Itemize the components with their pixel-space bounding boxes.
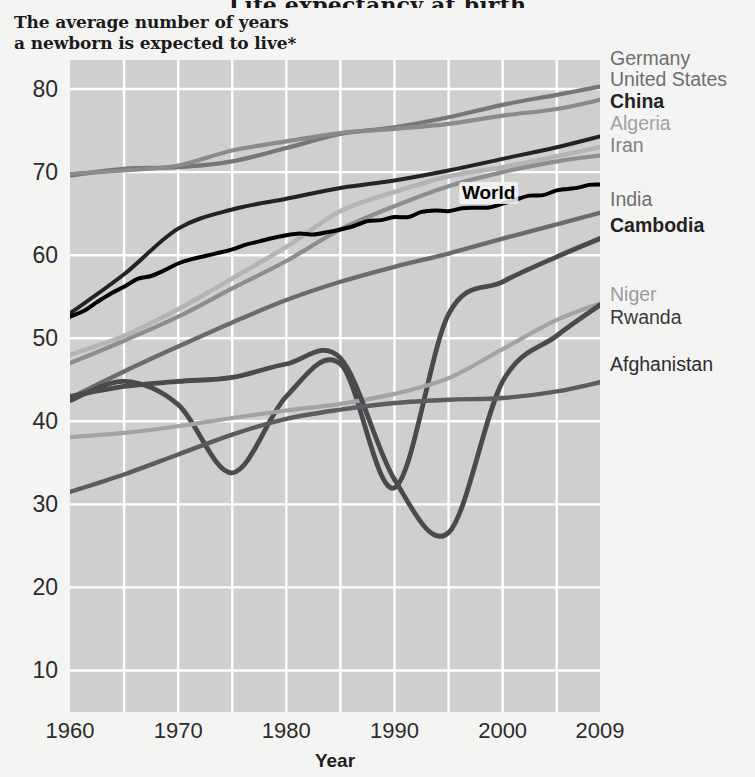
y-tick-10: 10	[32, 657, 58, 684]
x-axis-title: Year	[70, 750, 600, 772]
plot-area: World	[70, 60, 600, 712]
x-tick-2000: 2000	[478, 718, 527, 744]
legend-item-germany: Germany	[610, 49, 690, 68]
subtitle-line-2: a newborn is expected to live*	[14, 33, 296, 53]
y-tick-80: 80	[32, 76, 58, 103]
y-tick-20: 20	[32, 574, 58, 601]
chart-figure: Life expectancy at birth The average num…	[0, 0, 755, 777]
y-tick-60: 60	[32, 242, 58, 269]
series-line-afghanistan	[70, 382, 600, 492]
x-tick-1990: 1990	[370, 718, 419, 744]
legend-item-afghanistan: Afghanistan	[610, 355, 713, 374]
inline-label-world: World	[459, 182, 518, 204]
legend-item-niger: Niger	[610, 285, 657, 304]
y-tick-50: 50	[32, 325, 58, 352]
legend-item-cambodia: Cambodia	[610, 216, 704, 235]
y-axis-tick-labels: 8070605040302010	[0, 60, 66, 712]
chart-subtitle: The average number of years a newborn is…	[14, 12, 434, 54]
y-tick-70: 70	[32, 159, 58, 186]
plot-svg	[70, 60, 600, 712]
x-tick-1980: 1980	[262, 718, 311, 744]
y-tick-30: 30	[32, 491, 58, 518]
legend-item-china: China	[610, 92, 664, 111]
legend-item-algeria: Algeria	[610, 114, 671, 133]
y-tick-40: 40	[32, 408, 58, 435]
x-tick-1960: 1960	[46, 718, 95, 744]
legend-item-united-states: United States	[610, 70, 727, 89]
legend: GermanyUnited StatesChinaAlgeriaIranIndi…	[604, 0, 755, 777]
legend-item-india: India	[610, 190, 652, 209]
series-line-india	[70, 213, 600, 398]
legend-item-iran: Iran	[610, 136, 644, 155]
series-line-iran	[70, 156, 600, 364]
x-tick-1970: 1970	[154, 718, 203, 744]
subtitle-line-1: The average number of years	[14, 12, 288, 32]
legend-item-rwanda: Rwanda	[610, 308, 682, 327]
